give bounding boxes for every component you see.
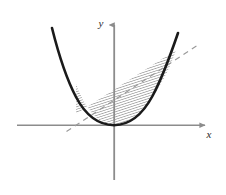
x-axis-label: x (206, 128, 212, 140)
figure-canvas: y x (0, 0, 226, 195)
hatched-area-path (76, 50, 176, 125)
y-axis-label: y (98, 17, 104, 29)
parabola-secant-area-figure: y x (0, 0, 226, 195)
